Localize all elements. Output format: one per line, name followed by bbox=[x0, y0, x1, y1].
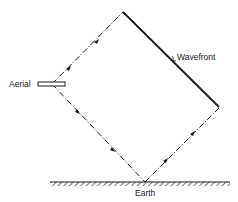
aerial-icon bbox=[38, 82, 65, 86]
aerial-label: Aerial bbox=[9, 80, 31, 89]
reflected-ray bbox=[145, 108, 219, 182]
arrow-icon bbox=[94, 39, 99, 44]
direct-ray bbox=[52, 12, 123, 84]
arrow-icon bbox=[163, 158, 168, 163]
wave-reflection-diagram: Aerial Wavefront Earth bbox=[0, 0, 238, 202]
earth-ground bbox=[50, 182, 230, 186]
arrow-icon bbox=[190, 131, 195, 136]
earth-label: Earth bbox=[135, 189, 155, 198]
wavefront-label: Wavefront bbox=[177, 53, 215, 62]
diagram-canvas bbox=[0, 0, 238, 202]
incident-ray bbox=[52, 84, 145, 182]
